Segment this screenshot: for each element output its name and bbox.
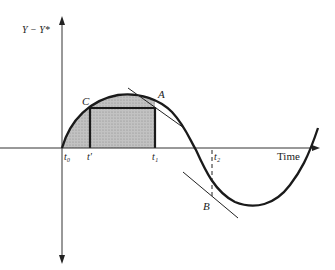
point-label-c: C xyxy=(82,95,90,107)
tick-label-t0: t₀ xyxy=(64,151,71,162)
y-axis-up-arrow-icon xyxy=(59,16,65,25)
point-label-a: A xyxy=(157,88,165,100)
tick-label-t-prime: t′ xyxy=(87,151,93,162)
x-axis-arrow-icon xyxy=(312,145,320,151)
point-label-b: B xyxy=(203,200,210,212)
tick-label-t2: t₂ xyxy=(214,151,221,162)
y-axis-down-arrow-icon xyxy=(59,255,65,264)
tick-label-t1: t₁ xyxy=(152,151,158,162)
cycle-diagram: Y − Y* Time C A B t₀ t′ t₁ t₂ xyxy=(0,0,335,270)
y-axis-label: Y − Y* xyxy=(22,24,50,35)
x-axis-label: Time xyxy=(277,150,300,162)
